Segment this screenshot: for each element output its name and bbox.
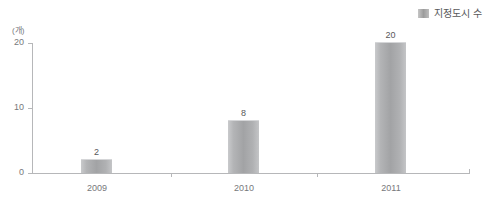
legend-swatch-icon bbox=[418, 9, 429, 18]
y-tick-20: 20 bbox=[28, 43, 32, 44]
x-separator-1 bbox=[171, 173, 172, 177]
bar-value-label-2010: 8 bbox=[241, 108, 246, 118]
y-tick-label-20: 20 bbox=[14, 37, 24, 47]
x-axis-line bbox=[32, 173, 470, 174]
bar-value-label-2011: 20 bbox=[385, 30, 395, 40]
bar-2009[interactable]: 2 bbox=[81, 159, 112, 173]
y-tick-label-10: 10 bbox=[14, 102, 24, 112]
bar-chart: 지정도시 수 (개) 20 10 0 2 8 20 2009 bbox=[0, 0, 490, 204]
bar-2011[interactable]: 20 bbox=[375, 42, 406, 173]
bar-value-label-2009: 2 bbox=[94, 147, 99, 157]
bar-2010[interactable]: 8 bbox=[228, 120, 259, 173]
y-tick-0: 0 bbox=[28, 173, 32, 174]
y-axis-line bbox=[32, 43, 33, 173]
x-axis-label-2011: 2011 bbox=[381, 183, 400, 193]
chart-legend: 지정도시 수 bbox=[418, 6, 482, 20]
x-axis-label-2010: 2010 bbox=[234, 183, 254, 193]
x-axis-label-2009: 2009 bbox=[87, 183, 107, 193]
x-axis-end-tick bbox=[469, 169, 470, 174]
plot-area: 20 10 0 2 8 20 bbox=[32, 43, 470, 173]
y-tick-label-0: 0 bbox=[19, 167, 24, 177]
x-separator-2 bbox=[317, 173, 318, 177]
y-tick-10: 10 bbox=[28, 108, 32, 109]
y-axis-unit-label: (개) bbox=[12, 24, 24, 35]
legend-item-label: 지정도시 수 bbox=[434, 8, 482, 19]
